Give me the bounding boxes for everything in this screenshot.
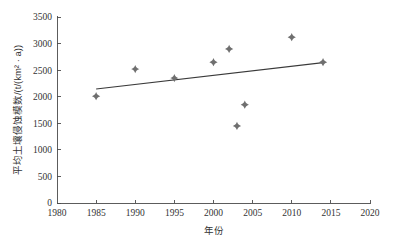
x-axis: 198019851990199520002005201020152020	[48, 200, 380, 219]
y-tick-label: 1000	[33, 145, 52, 155]
y-tick-label: 3000	[33, 39, 52, 49]
y-axis-tick-labels: 0500100015002000250030003500	[33, 12, 52, 208]
y-tick-label: 3500	[33, 12, 52, 22]
data-point-marker	[288, 33, 296, 41]
x-tick-label: 2010	[282, 208, 301, 218]
x-tick-label: 2005	[243, 208, 262, 218]
data-point-marker	[233, 122, 241, 130]
data-point-marker	[131, 65, 139, 73]
y-tick-label: 2000	[33, 92, 52, 102]
x-tick-label: 2015	[321, 208, 340, 218]
scatter-plot: 0500100015002000250030003500 19801985199…	[0, 0, 393, 251]
x-tick-label: 1980	[48, 208, 67, 218]
data-point-markers	[92, 33, 327, 130]
x-tick-label: 1995	[165, 208, 184, 218]
y-tick-label: 500	[38, 172, 53, 182]
trend-line	[96, 63, 323, 89]
data-point-marker	[209, 58, 217, 66]
y-tick-label: 2500	[33, 66, 52, 76]
trend-line-group	[96, 63, 323, 89]
data-point-marker	[241, 101, 249, 109]
y-tick-label: 0	[47, 198, 52, 208]
data-point-marker	[319, 58, 327, 66]
chart-container: 0500100015002000250030003500 19801985199…	[0, 0, 393, 251]
x-tick-label: 2000	[204, 208, 223, 218]
x-tick-label: 1990	[126, 208, 145, 218]
data-point-marker	[170, 74, 178, 82]
x-axis-title: 年份	[204, 225, 224, 236]
y-axis-title: 平均土壤侵蚀模数/(t/(km² · a))	[12, 45, 23, 175]
y-axis: 0500100015002000250030003500	[33, 12, 61, 208]
data-point-marker	[92, 92, 100, 100]
x-tick-label: 2020	[361, 208, 380, 218]
y-tick-label: 1500	[33, 119, 52, 129]
data-point-marker	[225, 45, 233, 53]
x-axis-ticks	[96, 200, 370, 204]
y-axis-ticks	[57, 17, 61, 203]
x-tick-label: 1985	[87, 208, 106, 218]
x-axis-tick-labels: 198019851990199520002005201020152020	[48, 208, 380, 218]
